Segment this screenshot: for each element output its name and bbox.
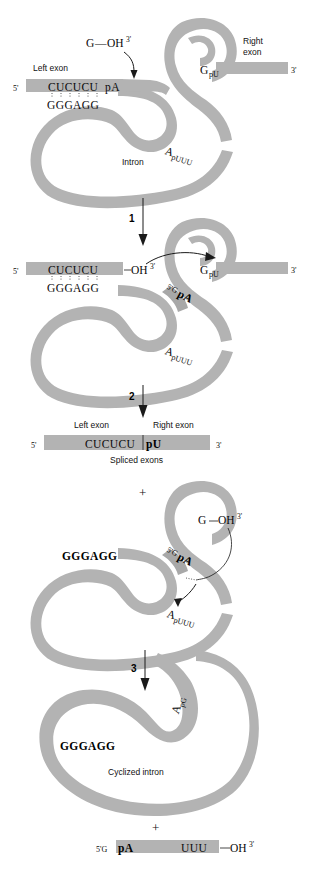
step-3-arrowhead bbox=[141, 678, 150, 691]
terminal-G-p4: G bbox=[198, 514, 206, 526]
released-pA: pA bbox=[118, 842, 134, 855]
intron-label: Intron bbox=[122, 157, 144, 167]
plus-sign-2: + bbox=[152, 820, 159, 835]
terminal-prime-p4: 3' bbox=[237, 512, 243, 521]
left-exon-label-p3: Left exon bbox=[74, 420, 109, 430]
released-OH: OH bbox=[230, 842, 247, 854]
right-exon-label-line1: Right bbox=[243, 36, 263, 46]
step-2-number: 2 bbox=[129, 391, 135, 402]
step-2-arrowhead bbox=[139, 405, 148, 418]
guide-sequence-p2: GGGAGG bbox=[47, 282, 99, 294]
branch-pUUU-p4: pUUU bbox=[173, 615, 196, 630]
cofactor-link: — bbox=[94, 37, 107, 49]
left-exon-label: Left exon bbox=[33, 63, 68, 73]
right-exon-bar-p2 bbox=[216, 262, 288, 274]
cyclization-arrowhead bbox=[174, 598, 182, 607]
three-prime-label-p3: 3' bbox=[216, 441, 222, 450]
terminal-OH-p4: OH bbox=[218, 514, 235, 526]
panel-released-oligonucleotide: 5'G pA UUU OH 3' bbox=[96, 840, 255, 855]
right-exon-label-p3: Right exon bbox=[153, 420, 194, 430]
internal-guide-seq-p1: CUCUCU bbox=[48, 81, 99, 93]
five-prime-label-p2: 5' bbox=[13, 267, 19, 276]
branch-pUUU-p2: pUUU bbox=[170, 353, 193, 368]
guide-sequence-p5: GGGAGG bbox=[60, 740, 115, 752]
panel-precursor: G — OH 3' Left exon Right exon Intron 5'… bbox=[13, 18, 297, 208]
free-OH-prime-p2: 3' bbox=[150, 262, 156, 271]
internal-guide-seq-p2: CUCUCU bbox=[48, 264, 99, 276]
figure-canvas: G — OH 3' Left exon Right exon Intron 5'… bbox=[0, 0, 318, 871]
three-splice-pU-p1: pU bbox=[209, 70, 219, 79]
attack-arrowhead-1 bbox=[131, 70, 138, 79]
splicing-diagram: G — OH 3' Left exon Right exon Intron 5'… bbox=[0, 0, 318, 871]
cyclized-intron-ribbon bbox=[39, 650, 258, 816]
cofactor-OH-label: OH bbox=[107, 37, 124, 49]
three-prime-label-p1: 3' bbox=[291, 66, 297, 75]
branch-pUUU-p1: pUUU bbox=[170, 153, 193, 168]
right-exon-bar bbox=[216, 62, 288, 74]
three-splice-pU-p2: pU bbox=[209, 270, 219, 279]
step-1-arrowhead bbox=[139, 234, 148, 246]
spliced-right-seq: pU bbox=[146, 438, 162, 451]
hairpin-inner-ribbon-p2 bbox=[188, 235, 215, 266]
base-pair-dots bbox=[52, 93, 97, 98]
five-prime-label-p1: 5' bbox=[13, 84, 19, 93]
cyclized-intron-caption: Cyclized intron bbox=[108, 767, 164, 777]
released-UUU: UUU bbox=[181, 842, 207, 854]
panel-excised-linear-intron: G OH 3' GGGAGG 5'G pA A pUUU bbox=[31, 481, 243, 671]
right-exon-label-line2: exon bbox=[243, 47, 262, 57]
three-splice-G-p1: G bbox=[200, 64, 209, 76]
step-3-arrow: 3 bbox=[131, 650, 150, 691]
branch-pair-dots-p4 bbox=[186, 578, 196, 580]
branch-site-group-p4: A pUUU bbox=[165, 607, 198, 630]
step-1-number: 1 bbox=[129, 213, 135, 224]
cofactor-prime-label: 3' bbox=[126, 35, 132, 44]
released-prime: 3' bbox=[249, 840, 255, 849]
step-3-number: 3 bbox=[131, 663, 137, 674]
guide-sequence-p1: GGGAGG bbox=[47, 99, 99, 111]
three-splice-G-p2: G bbox=[200, 264, 209, 276]
five-prime-label-p3: 5' bbox=[31, 441, 37, 450]
released-5prime-G: 5'G bbox=[96, 845, 107, 854]
branch-site-group-p2: A pUUU bbox=[163, 344, 196, 367]
spliced-left-seq: CUCUCU bbox=[85, 438, 136, 450]
free-OH-p2: OH bbox=[131, 264, 148, 276]
panel-after-first-transesterification: OH 3' 5' 3' CUCUCU GGGAGG G pU 5'G pA A … bbox=[13, 218, 297, 408]
spliced-exons-caption: Spliced exons bbox=[110, 455, 163, 465]
plus-sign-1: + bbox=[139, 485, 146, 500]
three-prime-label-p2: 3' bbox=[291, 266, 297, 275]
base-pair-dots-p2 bbox=[52, 276, 97, 281]
hairpin-inner-ribbon bbox=[188, 35, 215, 66]
guide-sequence-p4: GGGAGG bbox=[62, 550, 117, 562]
branch-site-group-p1: A pUUU bbox=[163, 144, 196, 167]
cofactor-G-label: G bbox=[86, 37, 94, 49]
nucleophilic-attack-arrow-1 bbox=[124, 52, 134, 72]
five-splice-site-pA-p1: pA bbox=[105, 81, 120, 94]
panel-cyclized-intron: GGGAGG A pG Cyclized intron + bbox=[39, 650, 258, 835]
